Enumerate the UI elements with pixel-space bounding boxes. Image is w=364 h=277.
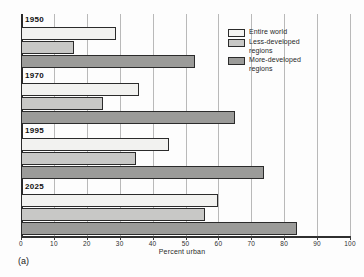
x-tick-label-80: 80 xyxy=(280,240,288,247)
more-developed-swatch-icon xyxy=(228,57,245,65)
x-tick-label-90: 90 xyxy=(313,240,321,247)
gridline-100 xyxy=(350,14,351,236)
x-tick-label-60: 60 xyxy=(215,240,223,247)
chart-legend: Entire world Less-developed regions More… xyxy=(228,28,301,74)
x-tick-label-40: 40 xyxy=(149,240,157,247)
legend-item-less-developed: Less-developed regions xyxy=(228,38,301,55)
group-label-1970: 1970 xyxy=(25,71,44,81)
less-developed-swatch-icon xyxy=(228,39,245,47)
bar-1995-less-developed xyxy=(21,152,136,165)
bar-group-1970: 1970 xyxy=(21,70,350,126)
legend-item-more-developed: More-developed regions xyxy=(228,56,301,73)
group-label-1995: 1995 xyxy=(25,126,44,136)
legend-label-entire-world: Entire world xyxy=(249,28,287,37)
x-tick-label-30: 30 xyxy=(116,240,124,247)
bar-1995-more-developed xyxy=(21,166,264,179)
bar-1950-entire-world xyxy=(21,27,116,40)
legend-label-more-developed: More-developed regions xyxy=(249,56,301,73)
x-tick-label-10: 10 xyxy=(50,240,58,247)
bar-1970-less-developed xyxy=(21,97,103,110)
figure-caption: (a) xyxy=(18,256,29,266)
x-tick-label-70: 70 xyxy=(247,240,255,247)
x-tick-label-20: 20 xyxy=(83,240,91,247)
bar-1950-less-developed xyxy=(21,41,74,54)
x-tick-label-0: 0 xyxy=(19,240,23,247)
bar-1995-entire-world xyxy=(21,138,169,151)
bar-1950-more-developed xyxy=(21,55,195,68)
entire-world-swatch-icon xyxy=(228,29,245,37)
bar-1970-entire-world xyxy=(21,83,139,96)
bar-2025-entire-world xyxy=(21,194,218,207)
x-tick-label-50: 50 xyxy=(182,240,190,247)
group-label-1950: 1950 xyxy=(25,15,44,25)
bar-2025-less-developed xyxy=(21,208,205,221)
figure-panel-a: 1950197019952025 Percent urban Entire wo… xyxy=(0,0,364,277)
legend-label-less-developed: Less-developed regions xyxy=(249,38,300,55)
bar-group-2025: 2025 xyxy=(21,181,350,237)
legend-item-entire-world: Entire world xyxy=(228,28,301,37)
x-tick-label-100: 100 xyxy=(344,240,355,247)
bar-2025-more-developed xyxy=(21,222,297,235)
bar-1970-more-developed xyxy=(21,111,235,124)
group-label-2025: 2025 xyxy=(25,182,44,192)
x-axis-title: Percent urban xyxy=(0,248,364,255)
bar-group-1995: 1995 xyxy=(21,125,350,181)
